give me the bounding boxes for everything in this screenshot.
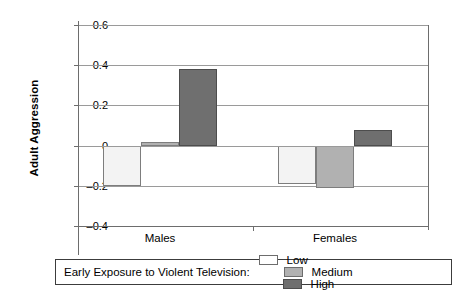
bar-chart: Adult Aggression 0.60.40.20–0.2–0.4 Male… [0,0,460,300]
y-axis-title: Adult Aggression [28,48,40,208]
bar-females-medium [316,146,354,188]
legend-label-high: High [311,278,335,290]
legend-swatch-high-icon [283,279,302,289]
gridline [79,25,428,26]
legend-title: Early Exposure to Violent Television: [64,266,250,278]
x-axis-line [79,226,428,227]
legend-item-low[interactable]: Low [259,254,353,266]
bar-females-high [354,130,392,146]
x-axis-label-females: Females [275,232,395,244]
legend-entries: LowMediumHigh [250,254,353,290]
gridline [79,65,428,66]
bar-males-high [179,69,217,145]
legend-swatch-low-icon [259,255,278,265]
legend-item-high[interactable]: High [283,278,353,290]
gridline [79,105,428,106]
legend: Early Exposure to Violent Television: Lo… [55,259,452,285]
x-axis-label-males: Males [100,232,220,244]
legend-swatch-medium-icon [284,267,303,277]
plot-right-border [428,25,429,230]
gridline [79,186,428,187]
plot-area [79,25,428,226]
legend-item-medium[interactable]: Medium [284,266,353,278]
zero-baseline [79,146,428,147]
bar-females-low [278,146,316,184]
y-axis-line [78,21,79,255]
legend-label-medium: Medium [312,266,353,278]
legend-label-low: Low [287,254,308,266]
bar-males-low [103,146,141,186]
